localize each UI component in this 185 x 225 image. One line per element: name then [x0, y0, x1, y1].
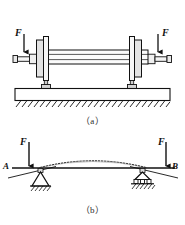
node-label-a: A [3, 162, 9, 171]
caption-b: （b） [0, 203, 185, 216]
wheel-disc-left [37, 37, 49, 85]
ground-hatching [15, 101, 170, 108]
force-label-left-a: F [15, 28, 22, 38]
rail-block-left [42, 85, 51, 89]
panel-b-group [8, 142, 178, 191]
foundation-slab [15, 89, 170, 101]
force-label-left-b: F [20, 137, 27, 147]
node-label-b: B [172, 162, 178, 171]
panel-a-group [13, 34, 172, 107]
engineering-figure [0, 0, 185, 225]
wheel-disc-right [130, 37, 142, 85]
journal-end-right [155, 56, 172, 63]
force-label-right-a: F [162, 28, 169, 38]
caption-a: （a） [0, 114, 185, 127]
force-label-right-b: F [158, 137, 165, 147]
rail-block-right [128, 85, 137, 89]
journal-end-left [13, 56, 30, 63]
